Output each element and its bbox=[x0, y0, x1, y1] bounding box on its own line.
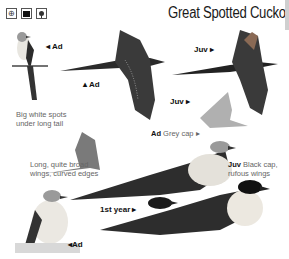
flying-juvenile-small bbox=[200, 92, 248, 128]
caption-juvenile-black-cap: Juv Black cap, rufous wings bbox=[228, 160, 288, 178]
first-year-bird bbox=[148, 197, 178, 209]
label-adult-perched: ◂ Ad bbox=[46, 42, 63, 51]
caption-adult-grey-cap: Ad Grey cap ▸ bbox=[151, 129, 206, 138]
flying-adult-bird bbox=[60, 30, 165, 120]
label-adult-ground: ◂Ad bbox=[68, 240, 83, 249]
caption-wings: Long, quite broad wings, curved edges bbox=[30, 160, 100, 178]
label-juvenile-flight: Juv ▸ bbox=[194, 45, 214, 54]
label-adult-flight: ▴ Ad bbox=[83, 80, 100, 89]
bird-illustrations bbox=[0, 0, 289, 259]
perched-adult-bird bbox=[12, 32, 48, 100]
caption-tail-spots: Big white spots under long tail bbox=[16, 110, 76, 128]
label-first-year: 1st year ▸ bbox=[100, 205, 136, 214]
label-juvenile-flight-small: Juv ▸ bbox=[170, 97, 190, 106]
